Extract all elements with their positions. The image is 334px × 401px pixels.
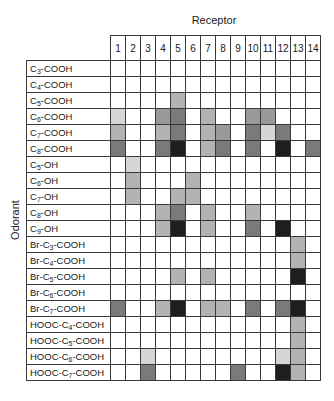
heatmap-cell <box>216 189 231 205</box>
heatmap-cell <box>291 77 306 93</box>
heatmap-cell <box>276 189 291 205</box>
heatmap-cell <box>276 237 291 253</box>
heatmap-cell <box>306 93 321 109</box>
column-header-receptor-7: 7 <box>201 36 216 61</box>
heatmap-cell <box>111 285 126 301</box>
heatmap-cell <box>171 253 186 269</box>
row-label-prefix: C <box>30 111 37 122</box>
row-label-suffix: -COOH <box>53 239 85 250</box>
heatmap-cell <box>186 157 201 173</box>
heatmap-cell <box>261 173 276 189</box>
heatmap-cell <box>231 157 246 173</box>
heatmap-cell <box>276 349 291 365</box>
heatmap-cell <box>111 269 126 285</box>
heatmap-cell <box>171 141 186 157</box>
heatmap-cell <box>126 77 141 93</box>
heatmap-cell <box>216 221 231 237</box>
heatmap-cell <box>231 269 246 285</box>
row-label-suffix: -OH <box>41 207 58 218</box>
heatmap-cell <box>231 301 246 317</box>
heatmap-row: C6-COOH <box>27 109 321 125</box>
heatmap-cell <box>111 61 126 77</box>
heatmap-cell <box>201 237 216 253</box>
heatmap-cell <box>141 205 156 221</box>
column-header-row: 1234567891011121314 <box>27 36 321 61</box>
heatmap-cell <box>201 349 216 365</box>
heatmap-cell <box>111 333 126 349</box>
row-label-suffix: -OH <box>41 175 58 186</box>
heatmap-cell <box>291 253 306 269</box>
heatmap-cell <box>216 93 231 109</box>
heatmap-cell <box>246 189 261 205</box>
heatmap-cell <box>261 125 276 141</box>
heatmap-cell <box>111 109 126 125</box>
row-label-prefix: HOOC-C <box>30 367 69 378</box>
heatmap-cell <box>261 61 276 77</box>
heatmap-cell <box>291 141 306 157</box>
heatmap-cell <box>111 221 126 237</box>
row-label-suffix: -COOH <box>41 127 73 138</box>
heatmap-cell <box>216 77 231 93</box>
heatmap-cell <box>156 317 171 333</box>
heatmap-cell <box>171 285 186 301</box>
heatmap-cell <box>111 77 126 93</box>
heatmap-table: 1234567891011121314 C3-COOHC4-COOHC5-COO… <box>26 35 321 381</box>
heatmap-cell <box>216 333 231 349</box>
heatmap-cell <box>246 269 261 285</box>
heatmap-cell <box>156 61 171 77</box>
row-label-suffix: -COOH <box>53 303 85 314</box>
heatmap-cell <box>276 205 291 221</box>
heatmap-row: C7-COOH <box>27 125 321 141</box>
heatmap-cell <box>171 125 186 141</box>
row-label-prefix: C <box>30 223 37 234</box>
row-label-suffix: -COOH <box>72 319 104 330</box>
row-label-odorant: C3-COOH <box>27 61 111 77</box>
heatmap-cell <box>126 205 141 221</box>
heatmap-cell <box>156 109 171 125</box>
heatmap-cell <box>171 109 186 125</box>
heatmap-cell <box>216 157 231 173</box>
row-label-odorant: C7-COOH <box>27 125 111 141</box>
heatmap-cell <box>201 173 216 189</box>
column-header-receptor-4: 4 <box>156 36 171 61</box>
heatmap-cell <box>156 141 171 157</box>
row-label-odorant: HOOC-C5-COOH <box>27 333 111 349</box>
heatmap-cell <box>276 173 291 189</box>
heatmap-cell <box>261 285 276 301</box>
heatmap-cell <box>261 237 276 253</box>
row-label-prefix: C <box>30 207 37 218</box>
heatmap-cell <box>171 333 186 349</box>
heatmap-row: Br-C3-COOH <box>27 237 321 253</box>
row-label-suffix: -COOH <box>41 63 73 74</box>
heatmap-cell <box>201 253 216 269</box>
heatmap-cell <box>231 221 246 237</box>
column-header-receptor-14: 14 <box>306 36 321 61</box>
heatmap-cell <box>261 157 276 173</box>
heatmap-cell <box>231 285 246 301</box>
heatmap-cell <box>126 157 141 173</box>
heatmap-cell <box>201 77 216 93</box>
heatmap-row: HOOC-C6-COOH <box>27 349 321 365</box>
heatmap-cell <box>291 109 306 125</box>
heatmap-cell <box>141 237 156 253</box>
heatmap-cell <box>291 301 306 317</box>
heatmap-cell <box>201 141 216 157</box>
heatmap-cell <box>141 333 156 349</box>
heatmap-cell <box>216 285 231 301</box>
heatmap-cell <box>156 205 171 221</box>
heatmap-cell <box>306 205 321 221</box>
heatmap-cell <box>126 61 141 77</box>
heatmap-cell <box>201 109 216 125</box>
heatmap-cell <box>186 205 201 221</box>
heatmap-cell <box>111 173 126 189</box>
heatmap-cell <box>171 365 186 381</box>
heatmap-cell <box>261 253 276 269</box>
row-label-odorant: C5-OH <box>27 157 111 173</box>
heatmap-cell <box>156 157 171 173</box>
heatmap-cell <box>171 77 186 93</box>
column-header-receptor-12: 12 <box>276 36 291 61</box>
heatmap-cell <box>126 221 141 237</box>
heatmap-cell <box>156 189 171 205</box>
heatmap-cell <box>156 77 171 93</box>
heatmap-cell <box>156 125 171 141</box>
